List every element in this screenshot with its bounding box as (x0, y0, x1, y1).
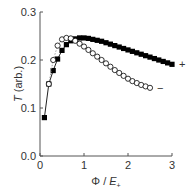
y-tick-label: 0.1 (21, 102, 36, 114)
data-point-circle (46, 81, 51, 86)
series-label: − (157, 82, 163, 94)
data-point-circle (103, 61, 108, 66)
x-tick-label: 2 (125, 159, 131, 171)
y-tick-label: 0.2 (21, 54, 36, 66)
y-tick-label: 0.0 (21, 150, 36, 162)
data-point-square (42, 115, 47, 120)
y-axis-label: T (arb.) (12, 66, 24, 102)
data-point-circle (55, 43, 60, 48)
data-point-circle (108, 64, 113, 69)
series-label: + (179, 58, 185, 70)
data-point-circle (86, 47, 91, 52)
data-point-circle (51, 57, 56, 62)
data-point-circle (99, 57, 104, 62)
data-point-circle (95, 54, 100, 59)
data-point-circle (147, 85, 152, 90)
labels: T (arb.) Φ / E+ (12, 66, 121, 189)
x-axis-label: Φ / E+ (91, 175, 120, 189)
chart: 0.00.10.20.30123 +− T (arb.) Φ / E+ (0, 0, 191, 191)
data-point-square (169, 62, 174, 67)
x-tick-label: 0 (37, 159, 43, 171)
data-point-circle (90, 51, 95, 56)
x-tick-label: 1 (81, 159, 87, 171)
y-tick-label: 0.3 (21, 6, 36, 18)
series-plus: + (42, 35, 186, 120)
series-layer: +− (42, 35, 186, 120)
data-point-circle (81, 44, 86, 49)
x-tick-label: 3 (169, 159, 175, 171)
data-point-square (59, 48, 64, 53)
